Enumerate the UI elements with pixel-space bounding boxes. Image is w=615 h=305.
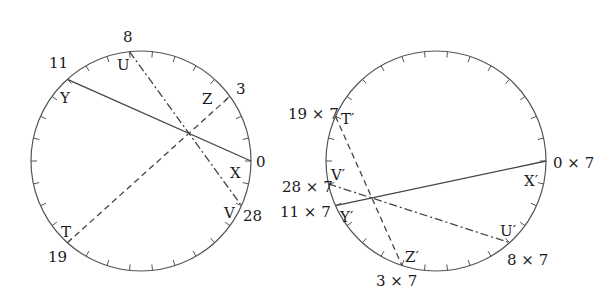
label-y-prime: Y′ (339, 208, 354, 226)
tick-mark (243, 138, 249, 139)
tick-mark (520, 222, 525, 226)
tick-mark (531, 203, 536, 205)
label-z-prime: Z′ (405, 248, 419, 266)
chord-t-prime-z-prime (336, 116, 403, 265)
tick-mark (381, 251, 384, 256)
tick-mark (33, 183, 39, 184)
tick-mark (173, 260, 175, 266)
chord-u-v (130, 52, 242, 206)
number-28: 28 (243, 207, 262, 225)
tick-mark (173, 56, 175, 62)
diagram-canvas: X Z U Y T V 0 3 8 11 19 28 X′ Z′ U′ Y′ (0, 0, 615, 305)
number-28x7: 28 × 7 (282, 178, 333, 196)
tick-mark (425, 52, 426, 58)
number-11x7: 11 × 7 (280, 203, 331, 221)
tick-mark (538, 138, 544, 139)
tick-mark (236, 116, 241, 118)
tick-mark (402, 56, 404, 62)
label-x-prime: X′ (524, 172, 539, 190)
tick-mark (107, 56, 109, 62)
tick-mark (488, 66, 491, 71)
label-x: X (230, 164, 241, 182)
label-t-prime: T′ (341, 110, 355, 128)
tick-mark (468, 56, 470, 62)
left-circle-group: X Z U Y T V 0 3 8 11 19 28 (31, 28, 266, 271)
number-11: 11 (49, 54, 68, 72)
chord-y-prime-x-prime (336, 161, 547, 206)
tick-mark (447, 52, 448, 58)
tick-mark (243, 183, 249, 184)
tick-mark (52, 222, 57, 226)
circle-permutation-diagram: X Z U Y T V 0 3 8 11 19 28 X′ Z′ U′ Y′ (0, 0, 615, 305)
label-v: V (223, 204, 236, 222)
tick-mark (362, 79, 366, 83)
number-3x7: 3 × 7 (376, 272, 417, 290)
number-19x7: 19 × 7 (288, 105, 339, 123)
tick-mark (520, 96, 525, 100)
tick-mark (86, 251, 89, 256)
tick-mark (531, 116, 536, 118)
tick-mark (33, 138, 39, 139)
tick-mark (381, 66, 384, 71)
tick-mark (488, 251, 491, 256)
tick-mark (211, 238, 215, 242)
number-3: 3 (236, 80, 246, 98)
tick-mark (538, 183, 544, 184)
number-8x7: 8 × 7 (507, 251, 548, 269)
tick-mark (193, 251, 196, 256)
label-y: Y (59, 89, 71, 107)
tick-mark (211, 79, 215, 83)
label-u: U (117, 56, 130, 74)
tick-mark (506, 79, 510, 83)
right-circle-group: X′ Z′ U′ Y′ T′ V′ 0 × 7 3 × 7 8 × 7 11 ×… (280, 51, 594, 290)
tick-mark (347, 96, 352, 100)
tick-mark (447, 264, 448, 270)
tick-mark (86, 66, 89, 71)
tick-mark (41, 203, 46, 205)
number-0: 0 (256, 153, 266, 171)
tick-mark (152, 264, 153, 270)
chord-v-prime-u-prime (328, 184, 509, 243)
number-0x7: 0 × 7 (553, 154, 594, 172)
tick-mark (107, 260, 109, 266)
number-19: 19 (48, 248, 67, 266)
label-z: Z (202, 90, 212, 108)
label-u-prime: U′ (500, 222, 517, 240)
number-8: 8 (123, 28, 133, 46)
tick-mark (152, 52, 153, 58)
tick-mark (468, 260, 470, 266)
label-t: T (61, 223, 71, 241)
tick-mark (425, 264, 426, 270)
tick-mark (362, 238, 366, 242)
chord-t-z (67, 96, 230, 242)
tick-mark (225, 222, 230, 226)
tick-mark (328, 138, 334, 139)
tick-mark (130, 264, 131, 270)
tick-mark (41, 116, 46, 118)
tick-mark (193, 66, 196, 71)
tick-mark (52, 96, 57, 100)
